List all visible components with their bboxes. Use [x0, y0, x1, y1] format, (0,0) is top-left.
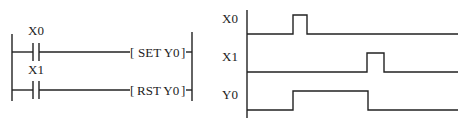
contact-label-x0: X0	[28, 23, 44, 38]
coil-close-bracket: ]	[181, 83, 185, 98]
coil-open-bracket: [	[130, 83, 134, 98]
plc-diagram: X0 [ SET Y0 ] X1 [ RST Y0 ]	[0, 0, 467, 130]
coil-label-set-y0: SET Y0	[138, 45, 180, 60]
signal-label-y0: Y0	[222, 87, 238, 102]
rung-2: X1 [ RST Y0 ]	[12, 62, 192, 99]
waveform-x0	[247, 15, 458, 34]
no-contact-icon	[33, 43, 39, 61]
ladder-diagram: X0 [ SET Y0 ] X1 [ RST Y0 ]	[12, 23, 192, 101]
signal-label-x1: X1	[222, 49, 238, 64]
waveform-x1	[247, 53, 458, 72]
waveform-y0	[247, 91, 458, 110]
no-contact-icon	[33, 81, 39, 99]
rung-1: X0 [ SET Y0 ]	[12, 23, 192, 61]
contact-label-x1: X1	[28, 62, 44, 77]
coil-open-bracket: [	[130, 45, 134, 60]
timing-diagram: X0 X1 Y0	[222, 10, 458, 118]
coil-label-rst-y0: RST Y0	[137, 83, 179, 98]
coil-close-bracket: ]	[181, 45, 185, 60]
signal-label-x0: X0	[222, 11, 238, 26]
